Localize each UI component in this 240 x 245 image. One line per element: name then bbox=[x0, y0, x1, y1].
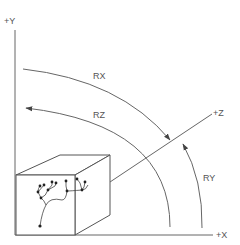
cube bbox=[16, 155, 110, 235]
x-axis-label: +X bbox=[216, 230, 227, 240]
rz-label: RZ bbox=[93, 110, 105, 120]
ry-rotation-arrow bbox=[183, 144, 202, 228]
z-axis bbox=[110, 114, 212, 182]
coordinate-rotation-diagram: +Y +X RX RZ RY +Z bbox=[0, 0, 240, 245]
y-axis-label: +Y bbox=[4, 16, 15, 26]
z-axis-label: +Z bbox=[213, 108, 224, 118]
rx-label: RX bbox=[93, 71, 106, 81]
ry-label: RY bbox=[203, 173, 215, 183]
